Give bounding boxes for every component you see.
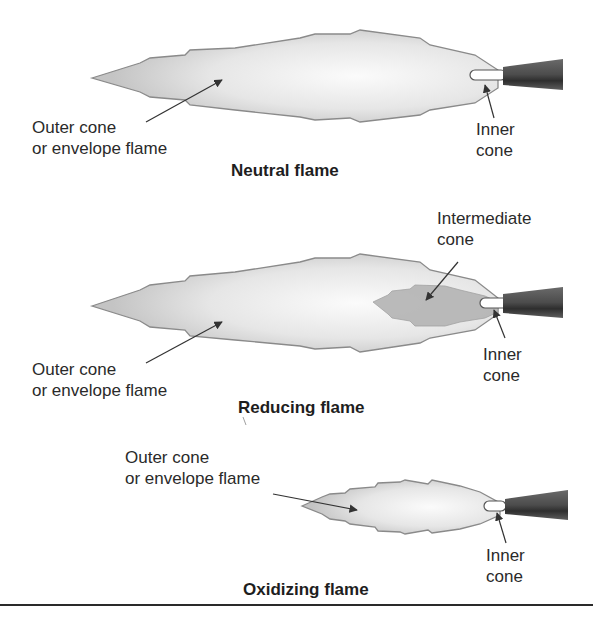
outer-cone-shape	[302, 480, 500, 534]
neutral-inner-label-line2: cone	[476, 141, 513, 161]
reducing-inner-label-line2: cone	[483, 366, 520, 386]
reducing-flame-title: Reducing flame	[238, 398, 365, 418]
reducing-intermediate-label-line2: cone	[437, 230, 474, 250]
inner-cone-shape	[484, 501, 506, 511]
neutral-inner-label-line1: Inner	[476, 120, 515, 140]
oxidizing-inner-label-line2: cone	[486, 567, 523, 587]
neutral-flame-title: Neutral flame	[231, 161, 339, 181]
flame-diagram	[0, 0, 593, 628]
torch-tip	[505, 490, 568, 520]
reducing-outer-label-line1: Outer cone	[32, 360, 116, 380]
stray-mark	[243, 417, 246, 425]
oxidizing-inner-label-line1: Inner	[486, 546, 525, 566]
inner-cone-shape	[470, 70, 506, 80]
oxidizing-outer-label-line1: Outer cone	[125, 448, 209, 468]
neutral-outer-label-line2: or envelope flame	[32, 139, 167, 159]
torch-tip	[503, 287, 563, 318]
oxidizing-outer-label-line2: or envelope flame	[125, 469, 260, 489]
bottom-rule	[0, 604, 593, 606]
neutral-outer-label-line1: Outer cone	[32, 118, 116, 138]
oxidizing-flame-title: Oxidizing flame	[243, 580, 369, 600]
oxidizing-flame	[273, 480, 568, 543]
torch-tip	[503, 59, 563, 90]
neutral-flame	[92, 30, 563, 122]
reducing-inner-label-line1: Inner	[483, 345, 522, 365]
reducing-outer-label-line2: or envelope flame	[32, 381, 167, 401]
inner-cone-arrow	[494, 310, 505, 338]
reducing-intermediate-label-line1: Intermediate	[437, 209, 532, 229]
outer-cone-shape	[92, 30, 498, 122]
inner-cone-arrow	[497, 513, 506, 543]
